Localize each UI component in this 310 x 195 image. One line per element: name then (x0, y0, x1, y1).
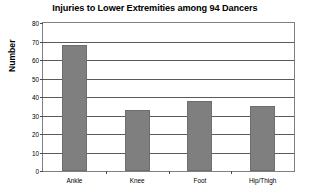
plot-area: 01020304050607080 AnkleKneeFootHip/Thigh (42, 22, 295, 172)
x-category-label: Foot (193, 177, 206, 184)
x-category-label: Ankle (66, 177, 82, 184)
bar-chart: Injuries to Lower Extremities among 94 D… (0, 0, 310, 195)
y-tick-mark (40, 153, 43, 154)
gridline (43, 42, 294, 43)
y-tick-label: 10 (32, 149, 39, 156)
x-category-label: Hip/Thigh (249, 177, 276, 184)
y-tick-label: 60 (32, 57, 39, 64)
y-tick-label: 30 (32, 112, 39, 119)
y-axis-label: Number (7, 40, 17, 72)
bar (187, 101, 212, 171)
bar (125, 110, 150, 171)
y-tick-mark (40, 171, 43, 172)
chart-title: Injuries to Lower Extremities among 94 D… (0, 3, 310, 13)
y-tick-label: 20 (32, 131, 39, 138)
x-tick-mark (169, 171, 170, 174)
y-tick-label: 0 (35, 168, 39, 175)
x-tick-mark (231, 171, 232, 174)
y-tick-mark (40, 60, 43, 61)
bar (62, 45, 87, 171)
bar (250, 106, 275, 171)
y-tick-mark (40, 42, 43, 43)
x-tick-mark (106, 171, 107, 174)
x-category-label: Knee (130, 177, 145, 184)
y-tick-mark (40, 116, 43, 117)
y-tick-mark (40, 97, 43, 98)
y-tick-label: 70 (32, 38, 39, 45)
y-tick-mark (40, 23, 43, 24)
y-tick-label: 50 (32, 75, 39, 82)
y-tick-mark (40, 134, 43, 135)
y-tick-label: 80 (32, 20, 39, 27)
y-tick-label: 40 (32, 94, 39, 101)
y-tick-mark (40, 79, 43, 80)
